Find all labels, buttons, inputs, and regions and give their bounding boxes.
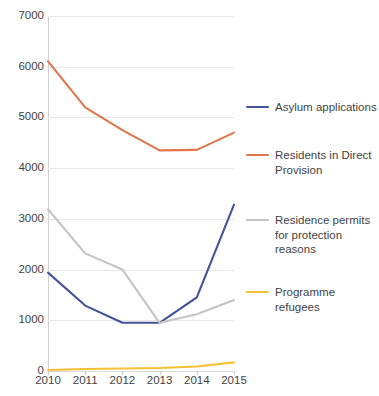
y-tick-label-2000: 2000 bbox=[2, 264, 44, 275]
legend-label-1: Residents in Direct Provision bbox=[275, 148, 372, 177]
legend-entry-1[interactable]: Residents in Direct Provision bbox=[246, 148, 372, 177]
legend-label-0: Asylum applications bbox=[275, 100, 377, 115]
y-tick-label-3000: 3000 bbox=[2, 213, 44, 224]
legend-swatch-icon-1 bbox=[246, 154, 269, 156]
legend-entry-3[interactable]: Programme refugees bbox=[246, 285, 379, 314]
series-line-1 bbox=[48, 61, 234, 150]
x-axis-tick-labels: 201020112012201320142015 bbox=[48, 374, 234, 392]
legend-label-3: Programme refugees bbox=[275, 285, 379, 314]
line-chart: 01000200030004000500060007000 2010201120… bbox=[0, 0, 379, 396]
legend-entry-2[interactable]: Residence permits for protection reasons bbox=[246, 213, 370, 257]
legend-entry-0[interactable]: Asylum applications bbox=[246, 100, 377, 115]
legend-swatch-icon-0 bbox=[246, 106, 269, 108]
legend-swatch-icon-3 bbox=[246, 291, 269, 293]
y-tick-label-6000: 6000 bbox=[2, 61, 44, 72]
series-line-3 bbox=[48, 362, 234, 370]
series-line-0 bbox=[48, 205, 234, 323]
series-container bbox=[48, 16, 234, 371]
y-tick-label-5000: 5000 bbox=[2, 111, 44, 122]
y-tick-label-1000: 1000 bbox=[2, 314, 44, 325]
y-tick-label-7000: 7000 bbox=[2, 10, 44, 21]
y-axis-tick-labels: 01000200030004000500060007000 bbox=[0, 0, 44, 396]
y-tick-label-4000: 4000 bbox=[2, 162, 44, 173]
series-line-2 bbox=[48, 209, 234, 323]
x-tick-label-2015: 2015 bbox=[212, 374, 256, 386]
plot-area bbox=[48, 16, 234, 371]
legend-swatch-icon-2 bbox=[246, 219, 269, 221]
legend-label-2: Residence permits for protection reasons bbox=[275, 213, 370, 257]
